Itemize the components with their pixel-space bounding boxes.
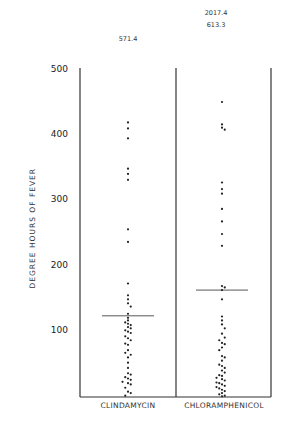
data-point (127, 331, 129, 333)
data-point (127, 241, 129, 243)
data-point (127, 127, 129, 129)
data-point (221, 193, 223, 195)
data-point (218, 387, 220, 389)
data-point (221, 383, 223, 385)
data-point (221, 360, 223, 362)
data-point (124, 321, 126, 323)
data-point (218, 349, 220, 351)
data-point (127, 137, 129, 139)
data-point (224, 385, 226, 387)
data-point (130, 305, 132, 307)
data-point (224, 356, 226, 358)
data-point (221, 346, 223, 348)
data-point (221, 285, 223, 287)
data-point (130, 327, 132, 329)
data-point (124, 387, 126, 389)
data-point (221, 355, 223, 357)
data-point (127, 391, 129, 393)
data-point (124, 329, 126, 331)
data-point (124, 335, 126, 337)
data-point (224, 371, 226, 373)
data-point (127, 377, 129, 379)
data-point (224, 379, 226, 381)
data-point (221, 220, 223, 222)
data-point (127, 337, 129, 339)
data-point (221, 378, 223, 380)
data-point (130, 354, 132, 356)
data-point (130, 392, 132, 394)
data-point (221, 315, 223, 317)
data-point (127, 179, 129, 181)
data-point (127, 282, 129, 284)
data-point (221, 188, 223, 190)
data-point (127, 367, 129, 369)
data-point (215, 386, 217, 388)
data-point (127, 313, 129, 315)
data-point (218, 393, 220, 395)
data-point (221, 375, 223, 377)
data-point (127, 173, 129, 175)
data-point (221, 123, 223, 125)
data-point (224, 286, 226, 288)
data-point (127, 168, 129, 170)
fever-dot-chart: 571.4 2017.4 613.3 500 400 300 200 100 D… (0, 0, 292, 423)
category-label-chloramphenicol: CHLORAMPHENICOL (176, 401, 272, 410)
data-point (130, 324, 132, 326)
plot-area (0, 0, 292, 423)
data-point (127, 294, 129, 296)
data-point (224, 390, 226, 392)
category-label-clindamycin: CLINDAMYCIN (80, 401, 176, 410)
data-point (224, 327, 226, 329)
data-point (127, 228, 129, 230)
data-point (124, 352, 126, 354)
data-point (221, 127, 223, 129)
data-point (218, 364, 220, 366)
data-point (218, 339, 220, 341)
data-point (130, 379, 132, 381)
data-point (127, 302, 129, 304)
data-point (124, 342, 126, 344)
data-point (124, 395, 126, 397)
data-point (127, 349, 129, 351)
data-point (221, 370, 223, 372)
data-point (127, 382, 129, 384)
data-point (221, 365, 223, 367)
data-point (127, 372, 129, 374)
data-point (124, 376, 126, 378)
data-point (221, 333, 223, 335)
data-point (127, 344, 129, 346)
data-point (127, 121, 129, 123)
data-point (127, 326, 129, 328)
data-point (130, 383, 132, 385)
data-point (218, 374, 220, 376)
data-point (221, 181, 223, 183)
data-point (224, 343, 226, 345)
data-point (221, 233, 223, 235)
data-point (130, 339, 132, 341)
data-point (127, 319, 129, 321)
data-point (221, 101, 223, 103)
data-point (221, 289, 223, 291)
data-point (221, 392, 223, 394)
data-point (215, 381, 217, 383)
data-point (218, 382, 220, 384)
data-point (215, 377, 217, 379)
data-point (221, 323, 223, 325)
data-point (221, 208, 223, 210)
data-point (130, 332, 132, 334)
data-point (127, 323, 129, 325)
data-point (224, 337, 226, 339)
data-point (221, 245, 223, 247)
data-point (221, 395, 223, 397)
data-point (221, 298, 223, 300)
data-point (127, 298, 129, 300)
data-point (221, 342, 223, 344)
data-point (127, 317, 129, 319)
data-point (221, 319, 223, 321)
data-point (127, 362, 129, 364)
data-point (221, 389, 223, 391)
data-point (224, 395, 226, 397)
data-point (127, 356, 129, 358)
data-point (224, 129, 226, 131)
data-point (130, 373, 132, 375)
